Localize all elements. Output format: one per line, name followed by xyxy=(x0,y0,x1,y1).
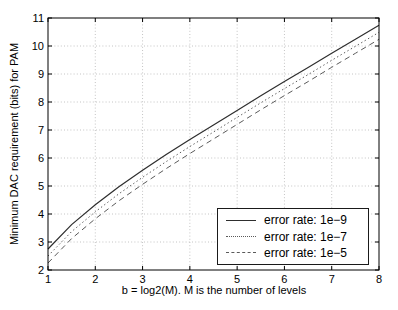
svg-text:2: 2 xyxy=(38,264,44,276)
svg-text:7: 7 xyxy=(329,273,335,285)
svg-text:3: 3 xyxy=(38,236,44,248)
y-axis-label: Minimum DAC requirement (bits) for PAM xyxy=(8,43,20,245)
svg-text:8: 8 xyxy=(38,96,44,108)
svg-text:10: 10 xyxy=(32,40,44,52)
legend: error rate: 1e−9 error rate: 1e−7 error … xyxy=(217,208,369,265)
legend-label: error rate: 1e−9 xyxy=(264,213,347,227)
x-axis-label: b = log2(M). M is the number of levels xyxy=(122,284,306,296)
legend-item: error rate: 1e−7 xyxy=(226,230,360,244)
legend-item: error rate: 1e−5 xyxy=(226,246,360,260)
svg-text:1: 1 xyxy=(45,273,51,285)
legend-line-sample-solid xyxy=(226,220,256,221)
y-tick-labels: 234567891011 xyxy=(32,12,44,276)
svg-text:6: 6 xyxy=(38,152,44,164)
legend-line-sample-dotted xyxy=(226,236,256,237)
svg-text:2: 2 xyxy=(92,273,98,285)
svg-text:5: 5 xyxy=(38,180,44,192)
svg-text:9: 9 xyxy=(38,68,44,80)
legend-line-sample-dashed xyxy=(226,252,256,253)
legend-item: error rate: 1e−9 xyxy=(226,213,360,227)
svg-text:11: 11 xyxy=(33,12,44,24)
svg-text:4: 4 xyxy=(38,208,44,220)
legend-label: error rate: 1e−7 xyxy=(264,230,347,244)
svg-text:7: 7 xyxy=(38,124,44,136)
figure: 12345678234567891011 Minimum DAC require… xyxy=(0,0,398,310)
legend-label: error rate: 1e−5 xyxy=(264,246,347,260)
svg-text:8: 8 xyxy=(376,273,382,285)
